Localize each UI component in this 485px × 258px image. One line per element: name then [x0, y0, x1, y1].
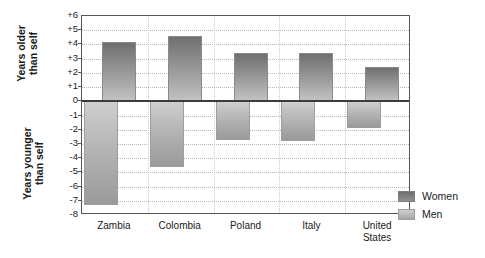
vertical-gridline: [345, 16, 346, 213]
y-axis-label-positive: Years older than self: [16, 19, 39, 89]
y-tick-label: +1: [54, 81, 78, 91]
y-tick-label: +5: [54, 24, 78, 34]
legend-swatch-men: [398, 209, 415, 220]
y-tick-label: +3: [54, 53, 78, 63]
bar-women: [299, 53, 333, 101]
bar-men: [150, 101, 184, 166]
vertical-gridline: [214, 16, 215, 213]
legend-item[interactable]: Women: [398, 190, 482, 202]
gridline: [82, 144, 409, 145]
y-axis-label-negative: Years younger than self: [22, 121, 45, 207]
y-tick-label: +6: [54, 10, 78, 20]
legend-swatch-women: [398, 191, 415, 202]
y-tick-label: +4: [54, 38, 78, 48]
y-tick-label: -6: [54, 181, 78, 191]
legend-label: Men: [422, 209, 442, 220]
y-tick-label: -5: [54, 166, 78, 176]
y-tick-label: -4: [54, 152, 78, 162]
bar-women: [365, 67, 399, 101]
gridline: [82, 172, 409, 173]
bar-women: [168, 36, 202, 101]
gridline: [82, 30, 409, 31]
chart-container: Years older than self Years younger than…: [0, 0, 485, 258]
chart-legend: WomenMen: [398, 190, 482, 226]
bar-men: [347, 101, 381, 128]
y-tick-label: -1: [54, 110, 78, 120]
bar-women: [234, 53, 268, 101]
y-tick-label: +2: [54, 67, 78, 77]
gridline: [82, 201, 409, 202]
y-tick-label: -2: [54, 124, 78, 134]
vertical-gridline: [148, 16, 149, 213]
y-tick-label: -8: [54, 209, 78, 219]
bar-women: [102, 42, 136, 102]
vertical-gridline: [279, 16, 280, 213]
zero-line: [82, 100, 409, 102]
gridline: [82, 187, 409, 188]
y-tick-label: -7: [54, 195, 78, 205]
gridline: [82, 158, 409, 159]
bar-men: [281, 101, 315, 141]
legend-label: Women: [422, 191, 458, 202]
y-tick-label: -3: [54, 138, 78, 148]
plot-area: [81, 15, 410, 214]
legend-item[interactable]: Men: [398, 208, 482, 220]
y-tick-label: 0: [54, 95, 78, 105]
bar-men: [84, 101, 118, 205]
bar-men: [216, 101, 250, 139]
